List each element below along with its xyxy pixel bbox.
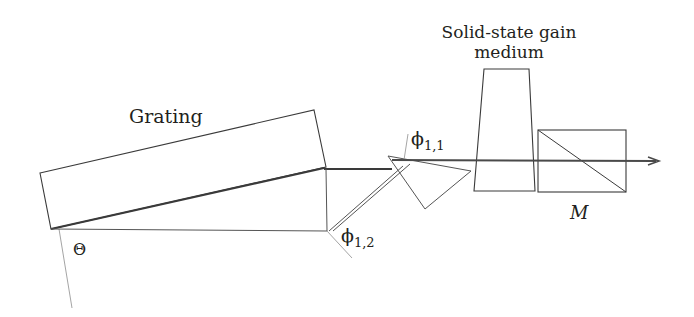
phi11-subscript: 1,1 [424, 138, 445, 153]
phi12-subscript: 1,2 [354, 235, 375, 250]
beam-diagonal-1 [329, 166, 403, 231]
gain-medium-label-line2: medium [474, 42, 544, 62]
phi11-label: ϕ1,1 [411, 127, 445, 153]
beam-vertical [326, 169, 327, 231]
theta-label: Θ [73, 240, 86, 259]
beam-grating-diagonal [51, 168, 324, 229]
prism [388, 156, 471, 209]
mirror-label: M [569, 202, 589, 223]
phi12-symbol: ϕ [341, 224, 354, 246]
gain-medium-label-line1: Solid-state gain [442, 22, 577, 42]
grating-normal-line [59, 229, 72, 308]
beam-diagonal-2 [333, 164, 410, 231]
phi11-symbol: ϕ [411, 127, 424, 149]
output-beam [392, 160, 656, 161]
phi12-label: ϕ1,2 [341, 224, 375, 250]
grating-label: Grating [129, 105, 203, 127]
grating [40, 110, 326, 229]
beam-lower-horizontal [51, 229, 327, 231]
phi11-normal-line [404, 134, 408, 160]
laser-cavity-diagram: Grating Solid-state gain medium Θ ϕ1,1 ϕ… [0, 0, 694, 317]
gain-medium [474, 69, 535, 191]
